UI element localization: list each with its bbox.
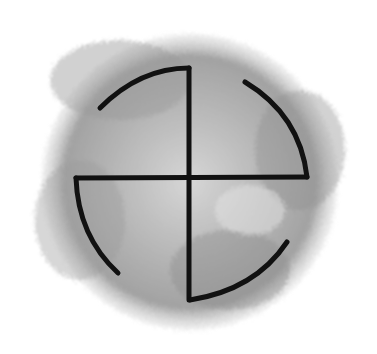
sun-cross-icon (0, 0, 377, 354)
symbol-illustration (0, 0, 377, 354)
